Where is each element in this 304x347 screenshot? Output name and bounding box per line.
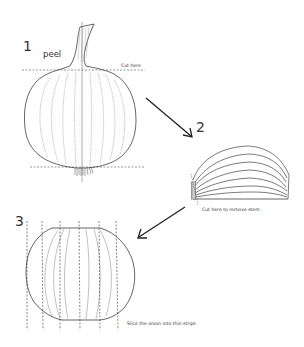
arrow-step1-to-step2 xyxy=(146,98,192,137)
slice-instruction-label: Slice the onion into thin strips xyxy=(127,321,196,326)
trimmed-onion-illustration xyxy=(26,221,135,330)
remove-stem-label: Cut here to remove stem xyxy=(202,207,260,212)
peel-label: peel xyxy=(43,49,61,59)
cut-here-label: Cut here xyxy=(121,63,141,68)
arrow-step2-to-step3 xyxy=(138,207,185,238)
slice-lines xyxy=(27,221,118,330)
whole-onion-illustration xyxy=(22,22,145,182)
half-onion-illustration xyxy=(191,146,289,205)
onion-body xyxy=(24,66,136,168)
step-3-number: 3 xyxy=(15,213,24,229)
step-1-number: 1 xyxy=(23,38,32,54)
step-2-number: 2 xyxy=(196,119,205,135)
